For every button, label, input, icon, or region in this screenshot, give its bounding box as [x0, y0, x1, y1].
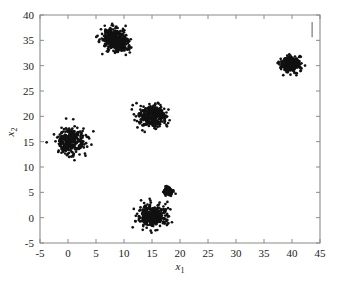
scatter-point: [117, 33, 120, 36]
scatter-point: [163, 192, 166, 195]
scatter-series: [45, 117, 94, 161]
figure-canvas: -5051015202530354045 -50510152025303540 …: [0, 0, 347, 282]
scatter-point: [277, 61, 280, 64]
scatter-point: [72, 154, 75, 157]
scatter-point: [148, 103, 151, 106]
scatter-point: [157, 102, 160, 105]
scatter-point: [64, 145, 67, 148]
scatter-point: [166, 215, 169, 218]
scatter-point: [71, 140, 74, 143]
scatter-point: [114, 33, 117, 36]
scatter-point: [125, 43, 128, 46]
scatter-point: [152, 121, 155, 124]
scatter-point: [299, 67, 302, 70]
scatter-series: [130, 102, 171, 134]
scatter-point: [141, 228, 144, 231]
scatter-point: [162, 212, 165, 215]
scatter-point: [58, 144, 61, 147]
scatter-point: [109, 35, 112, 38]
scatter-point: [125, 34, 128, 37]
scatter-point: [289, 73, 292, 76]
scatter-point: [133, 119, 136, 122]
scatter-point: [85, 135, 88, 138]
scatter-point: [72, 118, 75, 121]
scatter-point: [142, 117, 145, 120]
scatter-point: [45, 141, 48, 144]
scatter-point: [153, 125, 156, 128]
scatter-point: [148, 217, 151, 220]
scatter-point: [74, 142, 77, 145]
scatter-point: [289, 56, 292, 59]
axes-frame: [40, 15, 320, 243]
scatter-point: [53, 133, 56, 136]
x-tick-label: 20: [175, 247, 187, 259]
y-tick-label: -5: [25, 237, 35, 249]
scatter-point: [156, 123, 159, 126]
scatter-point: [143, 112, 146, 115]
scatter-point: [172, 190, 175, 193]
scatter-point: [147, 211, 150, 214]
scatter-point: [299, 70, 302, 73]
scatter-point: [167, 207, 170, 210]
scatter-point: [286, 54, 289, 57]
scatter-point: [57, 151, 60, 154]
scatter-point: [111, 42, 114, 45]
scatter-point: [73, 125, 76, 128]
scatter-point: [75, 150, 78, 153]
scatter-point: [141, 209, 144, 212]
scatter-point: [166, 212, 169, 215]
scatter-point: [287, 59, 290, 62]
scatter-point: [149, 116, 152, 119]
scatter-point: [106, 30, 109, 33]
y-tick-label: 40: [23, 9, 35, 21]
scatter-point: [107, 49, 110, 52]
x-tick-label: 40: [287, 247, 299, 259]
scatter-point: [156, 204, 159, 207]
scatter-point: [124, 25, 127, 28]
scatter-point: [300, 62, 303, 65]
scatter-point: [135, 102, 138, 105]
scatter-point: [90, 143, 93, 146]
scatter-point: [167, 222, 170, 225]
y-tick-label: 25: [23, 85, 35, 97]
scatter-point: [158, 107, 161, 110]
scatter-point: [140, 111, 143, 114]
scatter-point: [144, 220, 147, 223]
scatter-point: [138, 122, 141, 125]
scatter-point: [142, 223, 145, 226]
scatter-point: [140, 220, 143, 223]
scatter-point: [64, 138, 67, 141]
scatter-point: [124, 54, 127, 57]
scatter-point: [67, 152, 70, 155]
scatter-point: [104, 38, 107, 41]
scatter-point: [168, 188, 171, 191]
scatter-point: [82, 134, 85, 137]
y-tick-label: 30: [23, 60, 35, 72]
x-tick-label: 15: [147, 247, 159, 259]
scatter-series: [276, 53, 306, 76]
scatter-point: [152, 113, 155, 116]
scatter-point: [280, 60, 283, 63]
scatter-series: [131, 197, 173, 234]
scatter-point: [143, 202, 146, 205]
scatter-point: [108, 28, 111, 31]
scatter-point: [163, 120, 166, 123]
scatter-point: [131, 226, 134, 229]
scatter-point: [107, 45, 110, 48]
scatter-point: [76, 126, 79, 129]
scatter-point: [159, 225, 162, 228]
scatter-point: [286, 69, 289, 72]
scatter-point: [70, 131, 73, 134]
scatter-point: [59, 140, 62, 143]
scatter-point: [81, 130, 84, 133]
scatter-point: [86, 145, 89, 148]
scatter-point: [54, 140, 57, 143]
scatter-point: [59, 136, 62, 139]
scatter-point: [80, 146, 83, 149]
scatter-point: [161, 120, 164, 123]
scatter-point: [147, 107, 150, 110]
scatter-point: [105, 44, 108, 47]
x-tick-label: 5: [93, 247, 99, 259]
scatter-point: [117, 30, 120, 33]
scatter-point: [165, 219, 168, 222]
